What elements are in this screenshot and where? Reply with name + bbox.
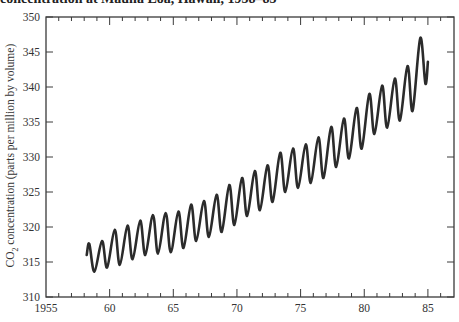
svg-text:335: 335 <box>23 116 41 128</box>
svg-text:85: 85 <box>422 302 434 314</box>
svg-text:350: 350 <box>23 11 41 23</box>
svg-text:315: 315 <box>23 256 41 268</box>
svg-text:345: 345 <box>23 46 41 58</box>
svg-text:340: 340 <box>23 81 41 93</box>
y-axis-ticks: 310315320325330335340345350 <box>23 11 454 303</box>
svg-text:70: 70 <box>231 302 243 314</box>
svg-text:80: 80 <box>359 302 371 314</box>
svg-text:330: 330 <box>23 151 41 163</box>
svg-text:65: 65 <box>168 302 180 314</box>
axes-frame <box>46 17 454 297</box>
svg-text:320: 320 <box>23 221 41 233</box>
svg-text:1955: 1955 <box>35 302 58 314</box>
data-series <box>87 38 428 272</box>
svg-text:75: 75 <box>295 302 307 314</box>
co2-line-chart: 310315320325330335340345350 195560657075… <box>0 0 459 322</box>
svg-text:325: 325 <box>23 186 41 198</box>
co2-series-line <box>87 38 428 272</box>
svg-text:60: 60 <box>104 302 116 314</box>
